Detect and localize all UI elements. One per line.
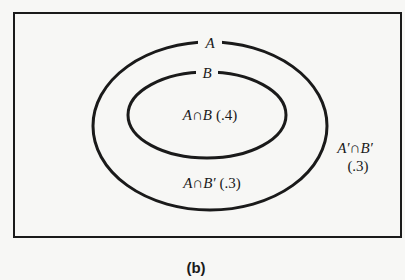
set-a-label: A (204, 35, 215, 51)
figure-caption: (b) (186, 259, 205, 276)
region-not-a-and-not-b-prob: (.3) (347, 158, 368, 175)
region-a-and-b: A∩B(.4) (182, 107, 237, 124)
region-a-and-not-b: A∩B′(.3) (182, 175, 241, 192)
set-b-label: B (202, 65, 211, 81)
region-a-and-b-prob: (.4) (216, 107, 237, 124)
region-a-and-not-b-expr: A∩B′ (182, 175, 216, 191)
region-not-a-and-not-b-expr: A′∩B′ (336, 140, 373, 156)
region-a-and-b-expr: A∩B (182, 107, 212, 123)
region-a-and-not-b-prob: (.3) (220, 175, 241, 192)
venn-diagram: A B A∩B(.4) A∩B′(.3) A′∩B′ (.3) (b) (0, 0, 405, 280)
